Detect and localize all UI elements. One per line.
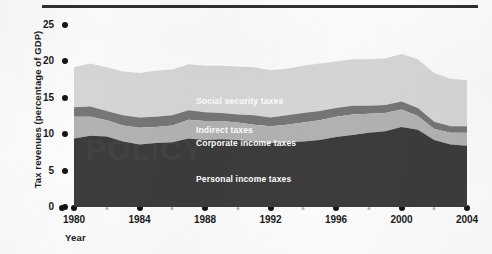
series-label-corporate: Corporate income taxes [196, 138, 296, 148]
series-label-social-security: Social security taxes [196, 96, 283, 106]
area-layers [74, 54, 467, 207]
figure-root: Tax revenues (percentage of GDP) 0510152… [0, 0, 492, 254]
series-label-personal: Personal income taxes [196, 174, 291, 184]
series-label-indirect: Indirect taxes [196, 125, 253, 135]
